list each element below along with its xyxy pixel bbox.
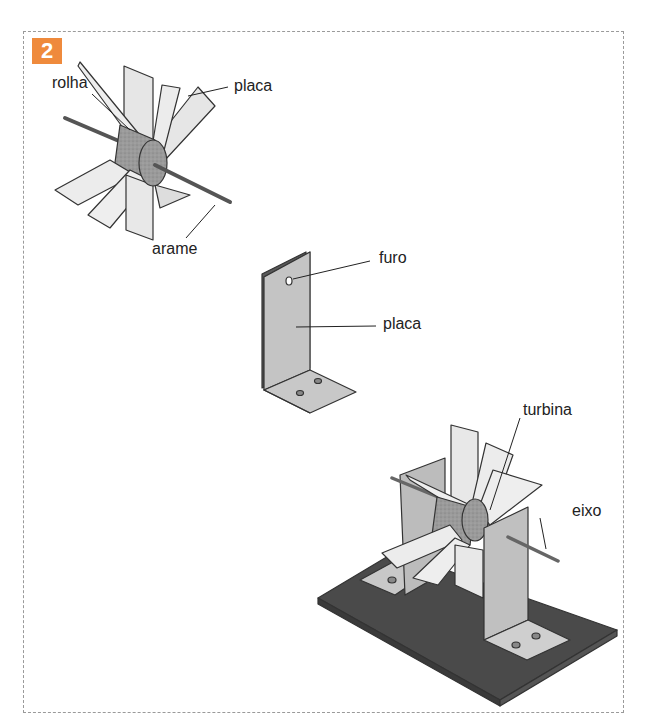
label-turbina: turbina [523, 401, 572, 419]
label-placa-bracket: placa [383, 315, 421, 333]
mounted-turbine-drawing [318, 425, 617, 706]
label-furo: furo [379, 249, 407, 267]
illustration [0, 0, 655, 728]
label-placa-turbine: placa [234, 77, 272, 95]
label-eixo: eixo [572, 502, 601, 520]
label-rolha: rolha [52, 74, 88, 92]
l-bracket-drawing [262, 252, 356, 413]
label-arame: arame [152, 240, 197, 258]
